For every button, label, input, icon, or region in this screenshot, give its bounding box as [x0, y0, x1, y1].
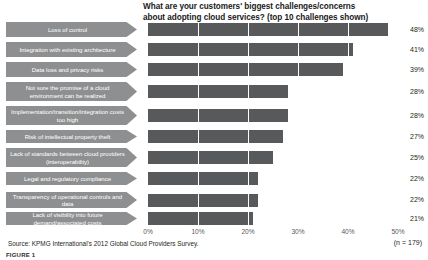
chart-row: Loss of control48%: [0, 22, 428, 37]
category-label-text: Implementation/transition/integration co…: [10, 108, 125, 122]
bar: [148, 23, 388, 36]
x-axis-tick-label: 30%: [291, 228, 304, 235]
bar: [148, 109, 288, 122]
category-label-tab: Risk of intellectual property theft: [6, 130, 137, 143]
bar: [148, 212, 253, 225]
bar: [148, 130, 283, 143]
category-label-text: Transparency of operational controls and…: [10, 193, 125, 207]
category-label-tab: Loss of control: [6, 22, 137, 37]
bar: [148, 194, 258, 207]
category-label-tab: Legal and regulatory compliance: [6, 172, 137, 185]
bar-track: [148, 194, 398, 207]
chart-figure: What are your customers' biggest challen…: [0, 0, 428, 260]
x-axis-tick-label: 40%: [341, 228, 354, 235]
category-label-text: Lack of visibility into future demand/as…: [10, 211, 125, 225]
bar: [148, 151, 273, 164]
category-label-tab: Not sure the promise of a cloud environm…: [6, 82, 137, 101]
category-label-text: Data loss and privacy risks: [10, 66, 125, 73]
source-note: Source: KPMG International's 2012 Global…: [8, 240, 198, 247]
bar: [148, 172, 258, 185]
bar-track: [148, 109, 398, 122]
chart-row: Data loss and privacy risks39%: [0, 62, 428, 77]
bar-track: [148, 85, 398, 98]
chart-row: Not sure the promise of a cloud environm…: [0, 82, 428, 101]
bar-value-label: 39%: [394, 66, 424, 73]
chart-title: What are your customers' biggest challen…: [143, 2, 423, 23]
chart-row: Transparency of operational controls and…: [0, 192, 428, 208]
x-axis: 0%10%20%30%40%50%: [148, 228, 406, 240]
bar-value-label: 41%: [394, 46, 424, 53]
bar: [148, 43, 353, 56]
category-label-text: Lack of standards between cloud provider…: [10, 150, 125, 164]
chart-title-line-1: What are your customers' biggest challen…: [143, 2, 423, 13]
bar-track: [148, 151, 398, 164]
category-label-text: Integration with existing architecture: [10, 46, 125, 53]
bar-value-label: 28%: [394, 88, 424, 95]
bar-value-label: 25%: [394, 154, 424, 161]
bar-value-label: 22%: [394, 175, 424, 182]
chart-row: Risk of intellectual property theft27%: [0, 130, 428, 143]
category-label-text: Risk of intellectual property theft: [10, 133, 125, 140]
bar-value-label: 21%: [394, 215, 424, 222]
category-label-tab: Lack of standards between cloud provider…: [6, 148, 137, 167]
figure-caption: FIGURE 1: [6, 252, 35, 258]
bar-value-label: 22%: [394, 196, 424, 203]
x-axis-tick-label: 10%: [191, 228, 204, 235]
category-label-tab: Implementation/transition/integration co…: [6, 106, 137, 125]
bar-track: [148, 23, 398, 36]
x-axis-tick-label: 50%: [391, 228, 404, 235]
x-axis-tick-label: 20%: [241, 228, 254, 235]
bar: [148, 63, 343, 76]
bar: [148, 85, 288, 98]
chart-row: Integration with existing architecture41…: [0, 42, 428, 57]
category-label-text: Not sure the promise of a cloud environm…: [10, 84, 125, 98]
x-axis-tick-label: 0%: [143, 228, 153, 235]
chart-row: Lack of visibility into future demand/as…: [0, 212, 428, 225]
chart-row: Implementation/transition/integration co…: [0, 106, 428, 125]
sample-size-note: (n = 179): [394, 239, 422, 246]
bar-track: [148, 130, 398, 143]
category-label-tab: Transparency of operational controls and…: [6, 192, 137, 208]
category-label-text: Legal and regulatory compliance: [10, 175, 125, 182]
bar-value-label: 48%: [394, 26, 424, 33]
bar-value-label: 28%: [394, 112, 424, 119]
bar-track: [148, 43, 398, 56]
plot-area: Loss of control48%Integration with exist…: [0, 22, 428, 226]
category-label-tab: Lack of visibility into future demand/as…: [6, 212, 137, 225]
chart-row: Legal and regulatory compliance22%: [0, 172, 428, 185]
category-label-tab: Integration with existing architecture: [6, 42, 137, 57]
category-label-text: Loss of control: [10, 26, 125, 33]
bar-value-label: 27%: [394, 133, 424, 140]
category-label-tab: Data loss and privacy risks: [6, 62, 137, 77]
bar-track: [148, 172, 398, 185]
chart-row: Lack of standards between cloud provider…: [0, 148, 428, 167]
bar-track: [148, 63, 398, 76]
bar-track: [148, 212, 398, 225]
